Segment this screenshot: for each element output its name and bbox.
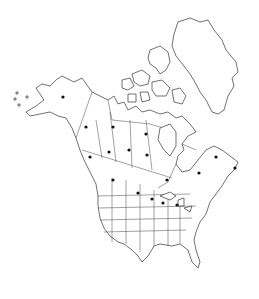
occurrence-dot [197, 171, 200, 174]
aleutian-islands [14, 92, 28, 106]
occurrence-dot [175, 203, 178, 206]
occurrence-dot [161, 201, 164, 204]
occurrence-dot [145, 153, 148, 156]
mainland [26, 76, 238, 268]
occurrence-dot [214, 155, 217, 158]
occurrence-dot [88, 155, 91, 158]
occurrence-dot [150, 197, 153, 200]
occurrence-dot [127, 148, 130, 151]
occurrence-dot [165, 178, 168, 181]
occurrence-dot [107, 150, 110, 153]
occurrence-dot [61, 95, 64, 98]
north-america-map [0, 0, 259, 299]
occurrence-dot [84, 125, 87, 128]
occurrence-dot [111, 178, 114, 181]
occurrence-dot [111, 125, 114, 128]
occurrence-dot [233, 166, 236, 169]
occurrence-dot [136, 191, 139, 194]
occurrence-dot [144, 132, 147, 135]
